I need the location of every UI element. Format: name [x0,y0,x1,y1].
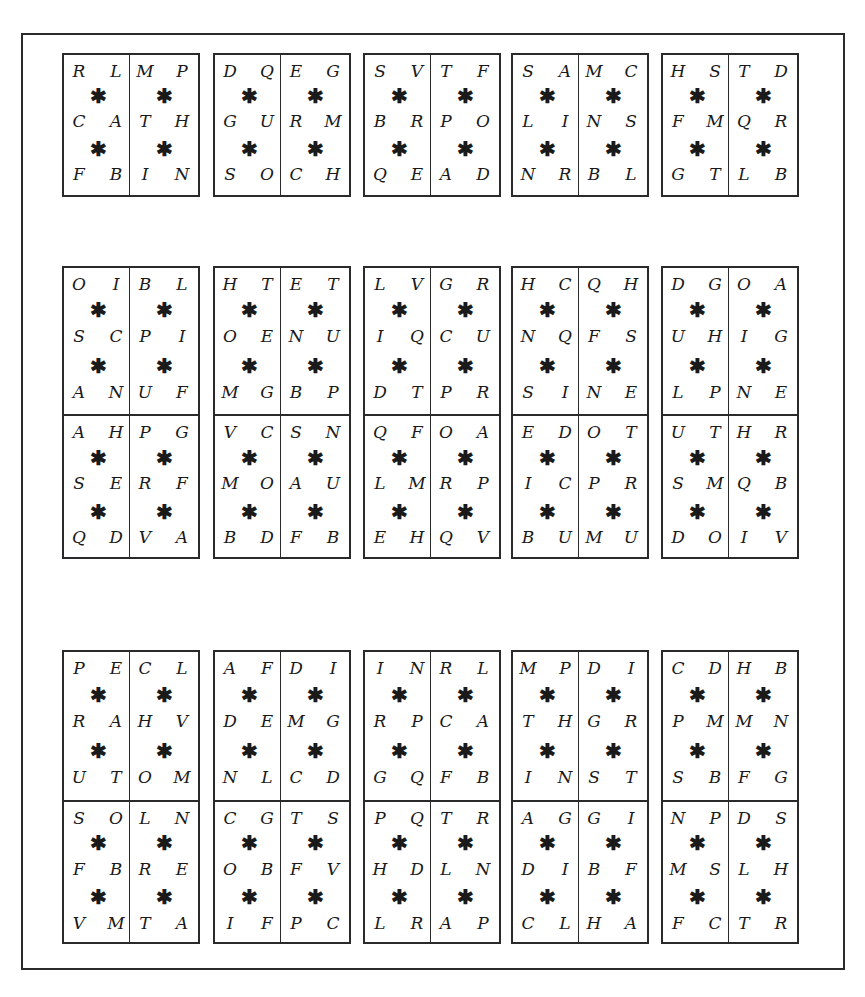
cipher-letter: S [706,63,724,80]
cipher-letter: A [173,915,191,932]
cipher-letter: O [136,769,154,786]
asterisk-hole-icon: ✱ [603,300,623,320]
cipher-letter: G [324,63,342,80]
asterisk-hole-icon: ✱ [305,502,325,522]
cipher-letter: R [622,713,640,730]
cipher-letter: P [474,475,492,492]
asterisk-hole-icon: ✱ [537,887,557,907]
cipher-letter: H [585,915,603,932]
card-panel-bottom: UTSMDO✱✱HRQBIV✱✱ [663,414,797,557]
cipher-letter: P [136,328,154,345]
cipher-letter: I [622,660,640,677]
cipher-letter: F [258,915,276,932]
cipher-letter: B [258,861,276,878]
asterisk-hole-icon: ✱ [603,741,623,761]
cipher-letter: N [735,384,753,401]
asterisk-hole-icon: ✱ [305,86,325,106]
asterisk-hole-icon: ✱ [455,139,475,159]
cipher-letter: R [622,475,640,492]
asterisk-hole-icon: ✱ [687,448,707,468]
cipher-letter: A [70,424,88,441]
cipher-letter: A [287,475,305,492]
cipher-letter: F [258,660,276,677]
grille-half-right: ETNUBP✱✱ [280,268,349,414]
cipher-letter: V [408,276,426,293]
asterisk-hole-icon: ✱ [537,356,557,376]
asterisk-hole-icon: ✱ [154,300,174,320]
cipher-letter: A [519,810,537,827]
grille-half-right: DSLHTR✱✱ [728,802,797,944]
cipher-letter: G [706,276,724,293]
asterisk-hole-icon: ✱ [88,833,108,853]
asterisk-hole-icon: ✱ [154,833,174,853]
grille-half-left: SVBRQE✱✱ [365,55,430,195]
cipher-letter: I [519,475,537,492]
asterisk-hole-icon: ✱ [603,833,623,853]
cipher-letter: R [408,113,426,130]
cipher-letter: U [474,328,492,345]
cipher-letter: P [70,660,88,677]
cipher-letter: M [221,475,239,492]
cipher-letter: D [287,660,305,677]
cipher-letter: E [408,166,426,183]
asterisk-hole-icon: ✱ [753,356,773,376]
cipher-letter: R [437,660,455,677]
cipher-letter: C [706,915,724,932]
cipher-letter: G [324,713,342,730]
cipher-letter: H [173,113,191,130]
cipher-letter: P [706,810,724,827]
asterisk-hole-icon: ✱ [603,887,623,907]
grille-half-right: MCNSBL✱✱ [578,55,647,195]
cipher-letter: D [408,861,426,878]
cipher-letter: A [437,915,455,932]
cipher-letter: C [437,328,455,345]
cipher-letter: U [324,475,342,492]
cipher-letter: P [173,63,191,80]
asterisk-hole-icon: ✱ [239,685,259,705]
cipher-letter: I [622,810,640,827]
cipher-letter: B [706,769,724,786]
cipher-letter: P [437,113,455,130]
grille-half-left: DQGUSO✱✱ [215,55,280,195]
cipher-letter: E [258,713,276,730]
cipher-letter: G [173,424,191,441]
cipher-letter: S [772,810,790,827]
asterisk-hole-icon: ✱ [537,139,557,159]
cipher-letter: R [474,810,492,827]
grille-half-left: AGDICL✱✱ [513,802,578,944]
asterisk-hole-icon: ✱ [753,86,773,106]
cipher-letter: S [706,861,724,878]
cipher-letter: D [221,63,239,80]
asterisk-hole-icon: ✱ [537,685,557,705]
cipher-letter: C [519,915,537,932]
grille-half-left: HSFMGT✱✱ [663,55,728,195]
cipher-letter: S [287,424,305,441]
cipher-letter: H [107,424,125,441]
cipher-letter: I [371,328,389,345]
cipher-letter: F [70,166,88,183]
asterisk-hole-icon: ✱ [305,887,325,907]
cipher-letter: V [70,915,88,932]
cipher-letter: F [735,769,753,786]
cipher-letter: T [437,810,455,827]
cipher-letter: C [287,769,305,786]
card-panel-bottom: EDICBU✱✱OTPRMU✱✱ [513,414,647,557]
cipher-letter: D [706,660,724,677]
cipher-letter: C [622,63,640,80]
cipher-letter: R [287,113,305,130]
card-panel: RLCAFB✱✱MPTHIN✱✱ [64,55,198,195]
cipher-letter: L [371,475,389,492]
asterisk-hole-icon: ✱ [154,502,174,522]
card-panel: DQGUSO✱✱EGRMCH✱✱ [215,55,349,195]
cipher-letter: A [437,166,455,183]
cipher-letter: P [371,810,389,827]
cipher-letter: M [408,475,426,492]
asterisk-hole-icon: ✱ [239,139,259,159]
cipher-letter: P [437,384,455,401]
cipher-letter: O [70,276,88,293]
cipher-letter: C [258,424,276,441]
cipher-letter: R [70,63,88,80]
cipher-letter: F [669,113,687,130]
asterisk-hole-icon: ✱ [389,356,409,376]
cipher-letter: N [173,810,191,827]
